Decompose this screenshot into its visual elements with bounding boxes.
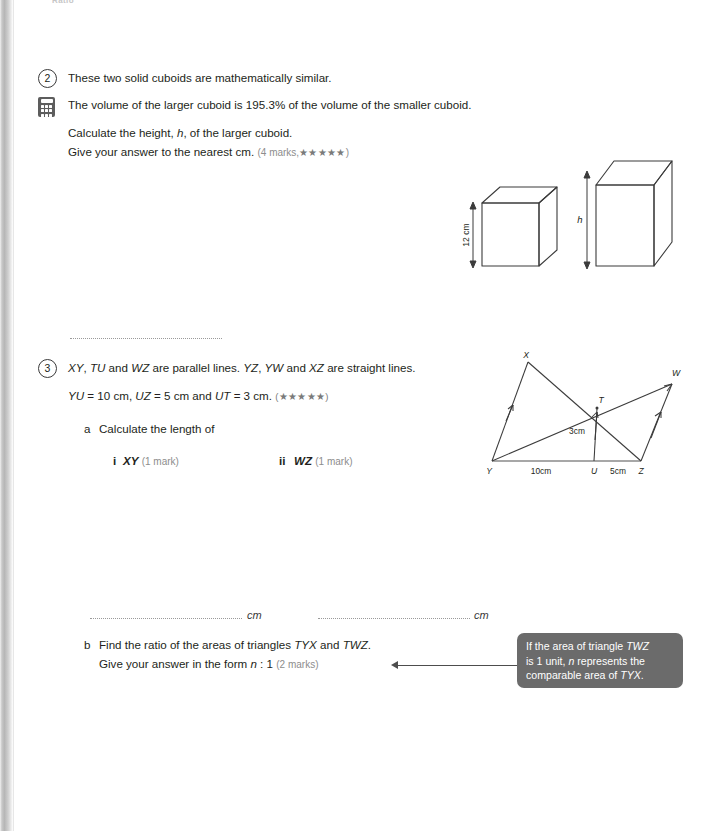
q3-part-b-pre: Find the ratio of the areas of triangles: [99, 638, 294, 651]
q3-part-b-end: .: [368, 638, 371, 651]
length-label-uz: 5cm: [610, 466, 626, 476]
two-similar-cuboids-figure: 12 cm h: [450, 130, 700, 295]
q3-len-yu: YU: [68, 389, 84, 402]
q3-part-a-text: Calculate the length of: [99, 421, 214, 436]
hint-line-2-post: represents the: [574, 655, 645, 667]
hint-line-3-pre: comparable area of: [526, 669, 620, 681]
length-label-yu: 10cm: [531, 466, 552, 476]
worksheet-page: Ratio 2 These two solid cuboids are math…: [0, 0, 706, 831]
hint-line-2-pre: is 1 unit,: [526, 655, 568, 667]
q2-difficulty-stars: ★★★★★: [299, 147, 346, 158]
hint-line-3: comparable area of TYX.: [526, 668, 674, 683]
q2-marks-close: ): [346, 147, 349, 158]
q3-len-sep-2: = 5 cm and: [151, 389, 215, 402]
q3-seg-tu: TU: [90, 361, 105, 374]
q3-part-a-i-marks: (1 mark): [142, 456, 179, 467]
q2-marks: (4 marks,: [257, 147, 299, 158]
q3-sep-3: are parallel lines.: [149, 361, 243, 374]
cuboid-small-height-label: 12 cm: [461, 223, 471, 246]
q3-seg-yw: YW: [265, 361, 284, 374]
vertex-label-u: U: [591, 466, 598, 476]
page-header-crumb: Ratio: [52, 0, 74, 5]
q3-part-a-i: XY (1 mark): [123, 453, 179, 469]
q3-len-ut: UT: [215, 389, 230, 402]
hint-leader-line: [395, 665, 517, 666]
q3-part-a-ii-label: WZ: [294, 454, 312, 467]
page-gutter-line: [13, 0, 14, 831]
vertex-label-w: W: [672, 368, 681, 378]
hint-line-2: is 1 unit, n represents the: [526, 654, 674, 669]
q3-answer-unit-i: cm: [247, 609, 262, 621]
q2-answer-line[interactable]: [70, 337, 222, 339]
hint-line-3-end: .: [641, 669, 644, 681]
q3-seg-xy: XY: [68, 361, 83, 374]
q3-part-a-i-numeral: i: [113, 453, 116, 468]
q2-line-3: Calculate the height, h, of the larger c…: [68, 125, 292, 140]
q3-part-b-marks: (2 marks): [276, 659, 318, 670]
q3-part-b-letter: b: [84, 637, 90, 652]
q2-line-3-pre: Calculate the height,: [68, 126, 177, 139]
vertex-label-x: X: [522, 350, 529, 360]
q3-len-sep-3: = 3 cm.: [230, 389, 272, 402]
parallel-lines-triangles-figure: X W T Y U Z 10cm 5cm 3cm: [482, 350, 706, 482]
vertex-label-y: Y: [486, 466, 493, 476]
q3-line-1: XY, TU and WZ are parallel lines. YZ, YW…: [68, 360, 415, 375]
q3-part-a-i-label: XY: [123, 454, 138, 467]
q2-line-3-post: , of the larger cuboid.: [183, 126, 292, 139]
q3-sep-2: and: [105, 361, 131, 374]
q2-line-2: The volume of the larger cuboid is 195.3…: [68, 97, 471, 112]
q3-seg-yz: YZ: [243, 361, 258, 374]
q3-part-a-ii: WZ (1 mark): [294, 453, 353, 469]
q3-part-a-ii-marks: (1 mark): [315, 456, 352, 467]
q3-seg-xz: XZ: [309, 361, 324, 374]
cuboid-large-height-label: h: [577, 214, 582, 225]
length-label-ut: 3cm: [569, 426, 585, 436]
hint-triangle-twz: TWZ: [626, 640, 649, 652]
hint-leader-arrow-icon: [391, 661, 398, 669]
q3-line-2: YU = 10 cm, UZ = 5 cm and UT = 3 cm. (★★…: [68, 388, 329, 404]
q3-answer-line-ii[interactable]: [318, 617, 470, 619]
hint-callout: If the area of triangle TWZ is 1 unit, n…: [517, 633, 683, 688]
vertex-label-t: T: [598, 395, 604, 405]
q2-line-1: These two solid cuboids are mathematical…: [68, 70, 332, 85]
q3-seg-wz: WZ: [131, 361, 149, 374]
q3-triangle-tyx: TYX: [294, 638, 317, 651]
q3-len-sep-1: = 10 cm,: [84, 389, 135, 402]
q3-part-a-ii-numeral: ii: [279, 453, 285, 468]
q3-len-uz: UZ: [135, 389, 150, 402]
q3-answer-unit-ii: cm: [474, 609, 489, 621]
vertex-label-z: Z: [637, 466, 644, 476]
q2-line-4: Give your answer to the nearest cm. (4 m…: [68, 144, 349, 160]
hint-line-1-pre: If the area of triangle: [526, 640, 626, 652]
page-gutter-shadow: [0, 0, 13, 831]
q3-triangle-twz: TWZ: [343, 638, 368, 651]
calculator-screen: [41, 99, 53, 103]
hint-triangle-tyx: TYX: [620, 669, 641, 681]
q3-part-a-letter: a: [84, 421, 90, 436]
q3-sep-6: are straight lines.: [324, 361, 416, 374]
q3-part-b-line-1: Find the ratio of the areas of triangles…: [99, 637, 371, 652]
calculator-keys: [41, 105, 53, 117]
q3-part-b-form-post: : 1: [257, 657, 273, 670]
q3-part-b-mid: and: [317, 638, 343, 651]
calculator-icon: [38, 97, 55, 117]
q3-sep-5: and: [283, 361, 309, 374]
q3-difficulty-stars: (★★★★★): [275, 391, 328, 402]
hint-line-1: If the area of triangle TWZ: [526, 639, 674, 654]
q2-line-4-text: Give your answer to the nearest cm.: [68, 145, 254, 158]
q3-answer-line-i[interactable]: [90, 617, 242, 619]
question-number-2: 2: [38, 69, 57, 88]
q3-part-b-form-pre: Give your answer in the form: [99, 657, 250, 670]
question-number-3: 3: [38, 359, 57, 378]
q3-part-b-line-2: Give your answer in the form n : 1 (2 ma…: [99, 656, 318, 672]
